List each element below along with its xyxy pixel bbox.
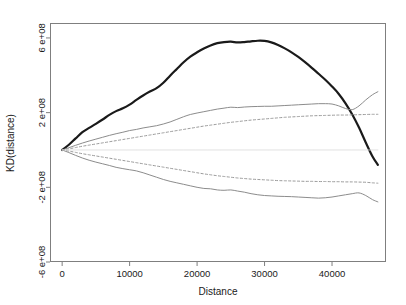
- x-tick-label: 20000: [184, 268, 210, 279]
- y-tick-label: 6 e+08: [36, 23, 47, 52]
- chart-figure: 010000200003000040000 6 e+082 e+08-2 e+0…: [0, 0, 406, 305]
- y-axis-title: KD(distance): [5, 114, 16, 172]
- y-tick-label: -2 e+08: [36, 171, 47, 204]
- x-tick-label: 40000: [319, 268, 345, 279]
- x-tick-label: 0: [59, 268, 64, 279]
- x-tick-label: 30000: [251, 268, 277, 279]
- y-tick-label: -6 e+08: [36, 246, 47, 279]
- x-axis-title: Distance: [199, 286, 238, 297]
- plot-background: [0, 0, 406, 305]
- kd-distance-plot: 010000200003000040000 6 e+082 e+08-2 e+0…: [0, 0, 406, 305]
- x-tick-label: 10000: [116, 268, 142, 279]
- y-tick-label: 2 e+08: [36, 98, 47, 127]
